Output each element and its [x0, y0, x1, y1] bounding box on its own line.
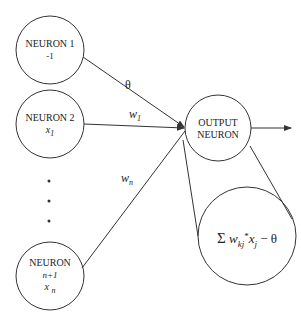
weight-w1: w1: [129, 107, 141, 123]
neuron-n1-label: NEURON n+1 x n: [16, 257, 84, 297]
ellipsis-dot: [48, 180, 51, 183]
edge-wn: [82, 131, 185, 268]
formula: Σ wkj*xj − θ: [198, 228, 296, 252]
edge-w1: [84, 124, 184, 128]
neuron-2-label: NEURON 2 x1: [16, 112, 84, 140]
zoom-line-right: [250, 146, 292, 219]
ellipsis-dot: [48, 200, 51, 203]
weight-theta: θ: [125, 78, 131, 93]
neuron-1-label: NEURON 1 -1: [16, 38, 84, 62]
output-neuron-label: OUTPUT NEURON: [185, 117, 251, 141]
weight-wn: wn: [121, 171, 133, 187]
ellipsis-dot: [48, 220, 51, 223]
zoom-line-left: [183, 140, 198, 236]
